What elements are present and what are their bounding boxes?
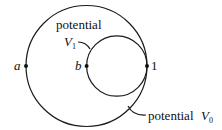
label-a: a — [14, 58, 21, 73]
inner-leader-line — [78, 42, 90, 49]
inner-circle — [87, 36, 147, 96]
outer-potential-label: potential — [148, 108, 194, 123]
inner-potential-symbol: V1 — [64, 34, 76, 51]
inner-potential-label: potential — [56, 17, 102, 32]
label-1: 1 — [151, 58, 158, 73]
outer-potential-symbol: V0 — [201, 108, 213, 125]
point-a — [24, 64, 28, 68]
label-b: b — [75, 58, 82, 73]
point-1 — [145, 64, 149, 68]
point-b — [85, 64, 89, 68]
diagram-canvas: a b 1 potential V1 potential V0 — [0, 0, 222, 130]
